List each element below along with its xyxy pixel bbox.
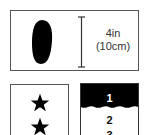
size-label: 4in (10cm) xyxy=(90,27,136,53)
list-item: 2 xyxy=(81,114,138,126)
dimension-bar-icon xyxy=(77,16,86,68)
oval-icon xyxy=(30,19,54,65)
numbered-list-panel: 1 2 3 xyxy=(80,83,139,135)
rating-panel xyxy=(10,84,69,135)
size-metric: (10cm) xyxy=(90,40,136,53)
list-item: 3 xyxy=(81,129,138,135)
star-icon xyxy=(30,93,50,113)
list-item: 1 xyxy=(81,92,138,104)
size-panel: 4in (10cm) xyxy=(10,10,139,71)
star-icon xyxy=(30,117,50,135)
size-imperial: 4in xyxy=(90,27,136,40)
